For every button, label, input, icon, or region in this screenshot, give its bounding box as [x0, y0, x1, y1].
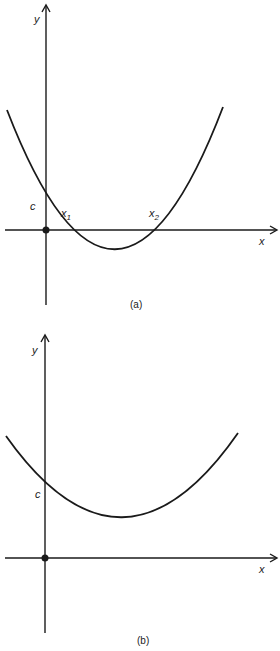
intercept-label-a: c	[30, 201, 36, 212]
root-label-x2: x2	[149, 208, 159, 222]
x-axis-label-b: x	[259, 564, 265, 575]
intercept-label-b: c	[35, 489, 41, 500]
diagram-canvas	[0, 0, 280, 651]
parabola-a	[7, 107, 223, 249]
caption-a: (a)	[130, 300, 142, 310]
y-axis-label-a: y	[34, 14, 40, 25]
origin-dot-a	[43, 227, 50, 234]
root-x1-sub: 1	[67, 213, 71, 222]
y-axis-label-b: y	[32, 345, 38, 356]
x-axis-label-a: x	[259, 236, 265, 247]
origin-dot-b	[42, 555, 49, 562]
root-x2-sub: 2	[155, 213, 159, 222]
root-label-x1: x1	[61, 208, 71, 222]
caption-b: (b)	[137, 636, 149, 646]
parabola-b	[6, 433, 238, 517]
